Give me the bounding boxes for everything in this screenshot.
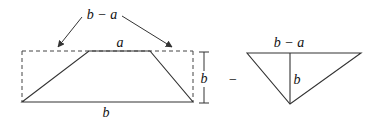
- triangle-top-label: b − a: [274, 35, 304, 50]
- left-arrow: [58, 17, 82, 47]
- minus-operator: −: [229, 72, 237, 87]
- diagram-canvas: b − a a b b − b − a b: [0, 0, 381, 119]
- height-label-b: b: [201, 71, 208, 86]
- triangle-shape: [247, 53, 361, 104]
- dashed-bounding-rectangle: [22, 51, 193, 102]
- triangle-height-label: b: [294, 72, 301, 87]
- top-arrow-label: b − a: [87, 7, 117, 22]
- bottom-side-label-b: b: [103, 105, 110, 119]
- trapezoid-shape: [22, 51, 193, 102]
- top-side-label-a: a: [117, 35, 124, 50]
- right-arrow: [122, 16, 172, 47]
